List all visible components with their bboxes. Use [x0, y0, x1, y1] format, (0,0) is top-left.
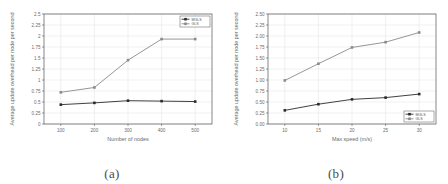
legend-label-gls: GLS	[416, 117, 424, 121]
legend-marker-mgls	[184, 18, 187, 21]
y-tick-label: 1.5	[34, 56, 41, 61]
y-tick-label: 1	[38, 78, 41, 83]
y-tick-label: 1.25	[32, 67, 41, 72]
y-tick-label: 0	[38, 122, 41, 127]
data-point-mgls	[351, 98, 354, 101]
y-tick-label: 0.25	[256, 111, 265, 116]
x-tick-label: 100	[57, 128, 65, 133]
y-tick-label: 0.75	[256, 89, 265, 94]
x-tick-label: 15	[316, 128, 322, 133]
data-point-mgls	[384, 96, 387, 99]
x-axis-title: Number of nodes	[107, 136, 149, 142]
data-point-mgls	[418, 93, 421, 96]
data-point-gls	[194, 38, 197, 41]
data-point-mgls	[127, 99, 130, 102]
y-axis-title: Average update overhead per node per sec…	[233, 13, 239, 126]
chart-b-canvas: 0.000.250.500.751.001.251.501.752.002.25…	[224, 0, 448, 152]
data-point-mgls	[284, 109, 287, 112]
data-point-gls	[284, 79, 287, 82]
y-tick-label: 2.25	[256, 23, 265, 28]
data-point-mgls	[60, 103, 63, 106]
x-tick-label: 300	[124, 128, 132, 133]
x-tick-label: 200	[91, 128, 99, 133]
x-tick-label: 25	[383, 128, 389, 133]
chart-a-canvas: 00.250.50.7511.251.51.7522.252.510020030…	[0, 0, 224, 152]
y-tick-label: 1.00	[256, 78, 265, 83]
y-axis-title: Average update overhead per node per sec…	[9, 13, 15, 126]
data-point-gls	[60, 91, 63, 94]
chart-b: 0.000.250.500.751.001.251.501.752.002.25…	[224, 0, 448, 152]
figure-row: 00.250.50.7511.251.51.7522.252.510020030…	[0, 0, 448, 184]
legend-label-gls: GLS	[192, 22, 200, 26]
x-tick-label: 500	[191, 128, 199, 133]
data-point-gls	[93, 86, 96, 89]
x-tick-label: 10	[282, 128, 288, 133]
data-point-gls	[384, 41, 387, 44]
y-tick-label: 2	[38, 34, 41, 39]
y-tick-label: 0.00	[256, 122, 265, 127]
data-point-gls	[418, 31, 421, 34]
x-axis-title: Max speed (m/s)	[332, 136, 372, 142]
data-point-mgls	[160, 100, 163, 103]
panel-a-caption: (a)	[0, 166, 224, 182]
data-point-gls	[127, 59, 130, 62]
legend-label-mgls: MGLS	[416, 113, 427, 117]
y-tick-label: 1.75	[32, 45, 41, 50]
legend: MGLSGLS	[180, 16, 210, 27]
y-tick-label: 1.50	[256, 56, 265, 61]
data-point-mgls	[317, 103, 320, 106]
x-tick-label: 400	[158, 128, 166, 133]
data-point-gls	[351, 46, 354, 49]
y-tick-label: 1.75	[256, 45, 265, 50]
legend: MGLSGLS	[404, 111, 434, 122]
panel-b: 0.000.250.500.751.001.251.501.752.002.25…	[224, 0, 448, 184]
x-tick-label: 30	[417, 128, 423, 133]
y-tick-label: 2.5	[34, 12, 41, 17]
legend-marker-gls	[408, 118, 411, 121]
panel-a: 00.250.50.7511.251.51.7522.252.510020030…	[0, 0, 224, 184]
panel-b-caption: (b)	[224, 166, 448, 182]
y-tick-label: 2.25	[32, 23, 41, 28]
y-tick-label: 2.00	[256, 34, 265, 39]
x-tick-label: 20	[349, 128, 355, 133]
y-tick-label: 0.75	[32, 89, 41, 94]
data-point-gls	[160, 38, 163, 41]
data-point-gls	[317, 62, 320, 65]
legend-label-mgls: MGLS	[192, 18, 203, 22]
legend-marker-mgls	[408, 113, 411, 116]
y-tick-label: 0.25	[32, 111, 41, 116]
data-point-mgls	[93, 102, 96, 105]
y-tick-label: 0.5	[34, 100, 41, 105]
y-tick-label: 2.50	[256, 12, 265, 17]
y-tick-label: 0.50	[256, 100, 265, 105]
legend-marker-gls	[184, 23, 187, 26]
chart-a: 00.250.50.7511.251.51.7522.252.510020030…	[0, 0, 224, 152]
data-point-mgls	[194, 100, 197, 103]
y-tick-label: 1.25	[256, 67, 265, 72]
